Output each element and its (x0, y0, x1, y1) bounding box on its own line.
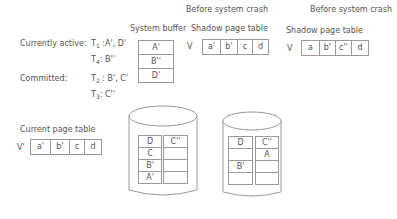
shadow-table-1: a' b' c d (202, 39, 269, 55)
t4-pages: : B'' (100, 55, 115, 64)
shadow-1-cell: b' (221, 40, 238, 54)
shadow-table-2-title: Shadow page table (286, 26, 363, 35)
current-cell: a' (31, 140, 51, 154)
disk-1-cell (164, 148, 187, 160)
t2-pages: : B', C' (102, 74, 128, 83)
shadow-2-cell: b' (320, 41, 336, 55)
transaction-t2: T2 : B', C' (91, 74, 128, 84)
current-table-prefix: V' (17, 143, 25, 152)
buffer-cell: D' (139, 69, 173, 82)
current-cell: c (70, 140, 85, 154)
system-buffer-title: System buffer (130, 24, 186, 33)
disk-1-cell: A' (139, 172, 161, 183)
disk-2-cell (256, 173, 278, 184)
shadow-table-1-title: Shadow page table (191, 24, 268, 33)
current-cell: b' (51, 140, 70, 154)
shadow-2-cell: c'' (336, 41, 352, 55)
shadow-table-1-prefix: V (187, 42, 192, 51)
shadow-2-cell: a (302, 41, 320, 55)
disk-1-cell (164, 172, 187, 183)
committed-label: Committed: (20, 74, 67, 83)
disk-2-cell (229, 173, 252, 184)
transaction-t4: T4: B'' (91, 55, 115, 65)
active-label: Currently active: (20, 39, 87, 48)
shadow-2-cell: d (352, 41, 368, 55)
shadow-table-2-prefix: V (287, 44, 292, 53)
t3-pages: : C'' (100, 90, 115, 99)
shadow-1-cell: a' (203, 40, 221, 54)
disk-1-cell: D (139, 136, 161, 148)
current-table-title: Current page table (20, 125, 95, 134)
disk-2-cell: B' (229, 161, 252, 173)
buffer-cell: A' (139, 41, 173, 55)
disk-2-cell: A (256, 149, 278, 161)
transaction-t1: T1 :A', D' (91, 39, 126, 49)
disk-1-right-column: C'' (163, 135, 188, 184)
heading-before-crash-2: Before system crash (310, 5, 392, 14)
disk-2-cell (256, 161, 278, 173)
shadow-1-cell: d (253, 40, 268, 54)
disk-1-left-column: D C B' A' (138, 135, 162, 184)
system-buffer: A' B'' D' (138, 40, 174, 83)
buffer-cell: B'' (139, 55, 173, 69)
current-cell: d (85, 140, 101, 154)
disk-2-cell (229, 149, 252, 161)
disk-2-cell: C'' (256, 137, 278, 149)
shadow-table-2: a b' c'' d (301, 40, 369, 56)
t1-pages: :A', D' (102, 39, 126, 48)
transaction-t3: T3: C'' (91, 90, 115, 100)
disk-2-cell: D (229, 137, 252, 149)
heading-before-crash-1: Before system crash (186, 5, 268, 14)
t2-sub: 2 (96, 77, 100, 84)
shadow-1-cell: c (238, 40, 253, 54)
disk-1-cell (164, 160, 187, 172)
disk-2-right-column: C'' A (255, 136, 279, 185)
current-page-table: a' b' c d (30, 139, 102, 155)
t1-sub: 1 (96, 42, 100, 49)
disk-1-cell: B' (139, 160, 161, 172)
disk-1-cell: C'' (164, 136, 187, 148)
disk-1-cell: C (139, 148, 161, 160)
disk-2-left-column: D B' (228, 136, 253, 185)
